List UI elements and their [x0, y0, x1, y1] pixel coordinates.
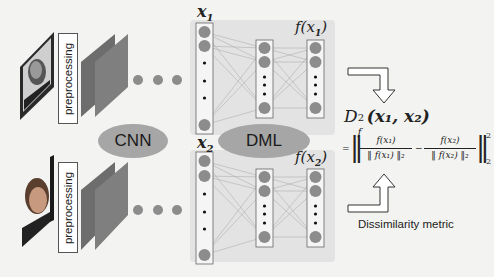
- input-label-x1: x1: [197, 2, 214, 23]
- arrow-down-icon: [348, 68, 395, 103]
- output-layer-top: [307, 40, 324, 118]
- arrow-up-icon: [348, 174, 395, 212]
- cnn-label: CNN: [115, 131, 152, 151]
- dml-label: DML: [246, 131, 282, 151]
- ellipsis-dots-top: [133, 75, 182, 85]
- cnn-feature-maps-bottom: [81, 162, 128, 250]
- cnn-module-label: CNN: [98, 124, 168, 158]
- metric-formula: = ‖ f(x₁) ‖ f(x₁) ‖₂ − f(x₂) ‖ f(x₂) ‖₂ …: [342, 133, 492, 167]
- output-label-fx2: f(x2): [295, 148, 327, 168]
- face-image-bottom: [20, 155, 54, 250]
- dissimilarity-metric-caption: Dissimilarity metric: [358, 218, 454, 230]
- preprocessing-label-bottom: preprocessing: [62, 171, 74, 243]
- input-layer-top: [196, 23, 213, 134]
- preprocessing-label-top: preprocessing: [62, 42, 74, 114]
- input-layer-bottom: [196, 152, 213, 264]
- preprocessing-box-bottom: preprocessing: [58, 162, 78, 253]
- metric-lhs: D2f(x₁, x₂): [344, 106, 430, 126]
- input-label-x2: x2: [197, 133, 214, 154]
- output-label-fx1: f(x1): [295, 18, 327, 38]
- preprocessing-box-top: preprocessing: [58, 33, 78, 124]
- face-image-top: [20, 32, 54, 120]
- cnn-feature-maps-top: [81, 34, 128, 117]
- hidden-layer-bottom: [256, 169, 273, 247]
- ellipsis-dots-bottom: [133, 205, 182, 215]
- output-layer-bottom: [307, 169, 324, 247]
- hidden-layer-top: [256, 40, 273, 118]
